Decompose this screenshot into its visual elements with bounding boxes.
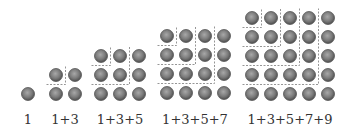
dot: [161, 68, 174, 81]
dot: [218, 87, 231, 100]
sum-label: 1+3+5+7: [162, 112, 228, 127]
dot: [246, 12, 259, 25]
dot: [284, 88, 297, 101]
dot: [114, 88, 127, 101]
dot: [303, 69, 316, 82]
dot: [133, 69, 146, 82]
dot: [95, 88, 108, 101]
dot: [199, 68, 212, 81]
dot: [303, 50, 316, 63]
dot: [284, 50, 297, 63]
dot: [218, 49, 231, 62]
dot: [161, 30, 174, 43]
dot: [322, 50, 335, 63]
dot: [180, 68, 193, 81]
sum-label: 1+3+5+7+9: [248, 112, 333, 127]
dot: [284, 31, 297, 44]
dot: [199, 87, 212, 100]
dot: [50, 69, 63, 82]
dot: [246, 50, 259, 63]
dot: [114, 50, 127, 63]
sum-label: 1+3+5: [97, 112, 144, 127]
dot: [284, 69, 297, 82]
dot: [50, 88, 63, 101]
dot: [265, 69, 278, 82]
dot: [95, 69, 108, 82]
dot: [218, 68, 231, 81]
sum-label: 1+3: [51, 112, 78, 127]
dot: [199, 30, 212, 43]
dot: [22, 88, 35, 101]
dot: [69, 88, 82, 101]
dot: [161, 87, 174, 100]
dot: [218, 30, 231, 43]
sum-label: 1: [24, 112, 32, 127]
dot: [180, 30, 193, 43]
dot: [265, 50, 278, 63]
dot: [322, 88, 335, 101]
odd-sum-squares-diagram: 11+31+3+51+3+5+71+3+5+7+9: [0, 0, 353, 137]
dot: [133, 88, 146, 101]
dot: [246, 69, 259, 82]
dot: [322, 69, 335, 82]
dot: [246, 31, 259, 44]
dot: [246, 88, 259, 101]
dot: [161, 49, 174, 62]
dot: [69, 69, 82, 82]
dot: [133, 50, 146, 63]
dot: [303, 31, 316, 44]
dot: [265, 12, 278, 25]
dot: [303, 88, 316, 101]
dot: [114, 69, 127, 82]
dot: [322, 12, 335, 25]
dot: [265, 31, 278, 44]
dot: [303, 12, 316, 25]
dot: [265, 88, 278, 101]
dot: [322, 31, 335, 44]
dot: [180, 87, 193, 100]
dot: [95, 50, 108, 63]
dot: [284, 12, 297, 25]
dot: [199, 49, 212, 62]
dot: [180, 49, 193, 62]
